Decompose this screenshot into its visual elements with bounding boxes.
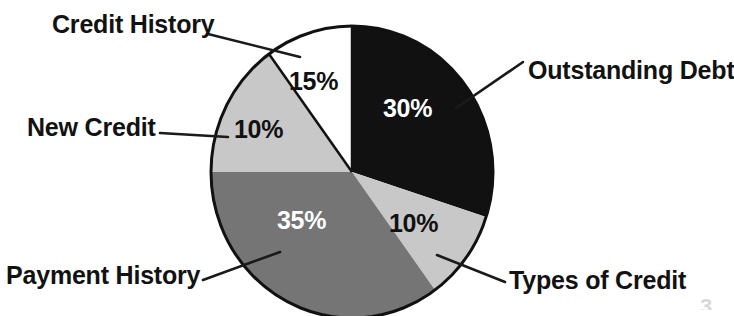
pie-label-payment-history: Payment History [6,263,200,288]
pie-value-outstanding-debt: 30% [383,96,432,121]
pie-value-types-of-credit: 10% [389,211,438,236]
pie-label-credit-history: Credit History [52,12,215,37]
page-number-artifact: 3 [700,296,712,310]
pie-chart-figure: Credit History Outstanding Debt New Cred… [0,0,734,316]
pie-value-new-credit: 10% [234,117,283,142]
pie-label-new-credit: New Credit [27,115,156,140]
pie-label-types-of-credit: Types of Credit [509,268,686,293]
pie-label-outstanding-debt: Outstanding Debt [528,58,734,83]
pie-value-credit-history: 15% [289,69,338,94]
pie-value-payment-history: 35% [277,208,326,233]
